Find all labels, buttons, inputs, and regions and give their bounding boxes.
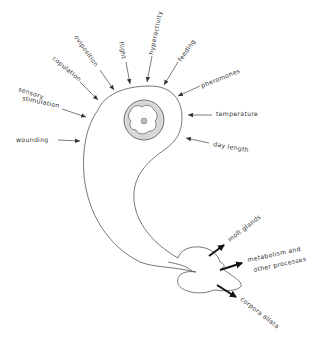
gland-lower-lobe: [178, 268, 242, 293]
neurosecretory-cell: [124, 100, 164, 140]
label-hyperactivity: hyperactivity: [147, 10, 164, 55]
neuroendocrine-diagram: wounding sensory stimulation copulation …: [0, 0, 318, 337]
arrow-copulation: [80, 82, 98, 100]
arrow-wounding: [58, 140, 80, 141]
output-labels: molt glands metabolism and other process…: [226, 213, 307, 331]
label-corpora-allata: corpora allata: [239, 295, 281, 330]
label-copulation: copulation: [51, 54, 83, 83]
label-pheromones: pheromones: [200, 67, 242, 90]
label-temperature: temperature: [216, 110, 258, 118]
label-wounding: wounding: [16, 136, 49, 144]
arrow-sensory-stimulation: [62, 109, 86, 117]
arrow-day-length: [186, 138, 209, 143]
label-molt-glands: molt glands: [226, 213, 262, 244]
label-feeding: feeding: [176, 38, 197, 63]
label-flight: flight: [117, 41, 128, 60]
label-day-length: day length: [213, 140, 250, 154]
arrow-pheromones: [178, 86, 200, 96]
label-oviposition: oviposition: [72, 34, 100, 69]
arrow-oviposition: [100, 70, 114, 90]
arrow-feeding: [164, 62, 178, 85]
arrow-flight: [126, 62, 130, 84]
arrow-hyperactivity: [147, 56, 152, 82]
